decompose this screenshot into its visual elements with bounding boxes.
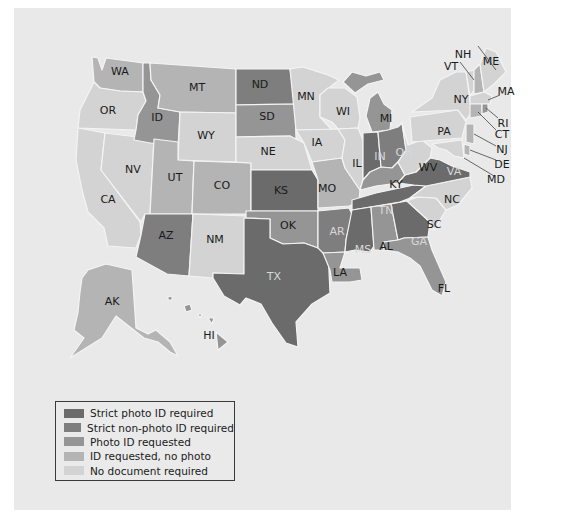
label-ma: MA	[497, 85, 514, 98]
label-ak: AK	[105, 295, 121, 308]
label-ga: GA	[411, 235, 428, 248]
leader-nj	[474, 134, 496, 146]
label-ia: IA	[312, 136, 323, 149]
label-sc: SC	[427, 218, 442, 231]
leader-ct	[478, 112, 496, 130]
label-md: MD	[487, 173, 505, 186]
label-id: ID	[151, 111, 163, 124]
legend-label: ID requested, no photo	[90, 450, 211, 462]
state-md	[432, 140, 464, 158]
label-ct: CT	[495, 128, 510, 141]
leader-ri	[486, 108, 498, 118]
label-hi: HI	[203, 329, 215, 342]
label-ca: CA	[100, 193, 116, 206]
legend-label: Strict non-photo ID required	[87, 422, 234, 434]
legend-swatch	[64, 466, 84, 475]
state-hi	[168, 296, 228, 350]
label-pa: PA	[437, 125, 451, 138]
legend-label: Strict photo ID required	[90, 407, 213, 419]
legend-item-no-document: No document required	[64, 464, 234, 478]
label-wa: WA	[111, 65, 129, 78]
legend: Strict photo ID required Strict non-phot…	[55, 401, 235, 481]
legend-item-id-no-photo: ID requested, no photo	[64, 449, 234, 463]
label-ok: OK	[280, 219, 297, 232]
label-la: LA	[333, 266, 347, 279]
label-il: IL	[352, 157, 362, 170]
label-nc: NC	[444, 193, 460, 206]
state-ct	[470, 104, 482, 118]
label-nj: NJ	[496, 143, 507, 156]
label-ne: NE	[260, 145, 275, 158]
label-wy: WY	[197, 129, 215, 142]
label-va: VA	[447, 165, 462, 178]
label-or: OR	[100, 104, 117, 117]
label-me: ME	[483, 55, 499, 68]
state-de	[464, 144, 470, 156]
legend-swatch	[64, 452, 84, 461]
state-ak	[70, 264, 178, 358]
label-mo: MO	[318, 182, 336, 195]
state-ma	[470, 92, 492, 104]
label-fl: FL	[438, 282, 451, 295]
label-in: IN	[374, 150, 385, 163]
label-nv: NV	[125, 163, 141, 176]
label-ut: UT	[168, 171, 183, 184]
legend-label: No document required	[90, 465, 208, 477]
label-nh: NH	[455, 48, 472, 61]
label-nd: ND	[252, 78, 269, 91]
label-ny: NY	[454, 93, 469, 106]
legend-swatch	[64, 437, 84, 446]
label-mn: MN	[297, 90, 315, 103]
leader-de	[470, 150, 496, 160]
label-tx: TX	[266, 270, 282, 283]
label-de: DE	[494, 158, 509, 171]
label-oh: OH	[396, 146, 413, 159]
label-vt: VT	[444, 60, 459, 73]
legend-item-strict-photo: Strict photo ID required	[64, 406, 234, 420]
label-al: AL	[379, 240, 394, 253]
legend-item-strict-non-photo: Strict non-photo ID required	[64, 420, 234, 434]
legend-swatch	[64, 409, 84, 418]
label-mt: MT	[189, 81, 205, 94]
label-sd: SD	[259, 110, 274, 123]
label-wi: WI	[336, 105, 350, 118]
legend-swatch	[64, 423, 81, 432]
label-tn: TN	[378, 204, 394, 217]
label-mi: MI	[380, 112, 393, 125]
legend-item-photo-requested: Photo ID requested	[64, 435, 234, 449]
label-ky: KY	[389, 178, 403, 191]
label-nm: NM	[206, 233, 224, 246]
label-ms: MS	[355, 243, 371, 256]
legend-label: Photo ID requested	[90, 436, 191, 448]
label-wv: WV	[419, 161, 438, 174]
label-ks: KS	[274, 184, 288, 197]
state-nj	[466, 124, 474, 144]
label-ar: AR	[329, 225, 345, 238]
label-az: AZ	[158, 229, 174, 242]
state-az	[136, 214, 193, 276]
label-co: CO	[214, 179, 231, 192]
state-nm	[189, 214, 246, 278]
